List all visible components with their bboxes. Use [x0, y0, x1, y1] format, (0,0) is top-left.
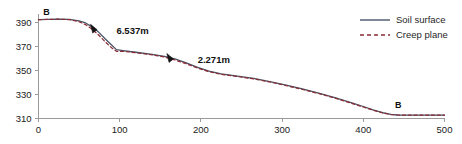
- displacement-2-arrow-icon: [167, 54, 174, 63]
- displacement-2-label: 2.271m: [198, 54, 230, 65]
- slope-profile-chart: 310330350370390 0100200300400500 6.537m2…: [0, 0, 462, 144]
- x-tick-label: 100: [112, 124, 128, 135]
- y-tick-label: 390: [16, 17, 32, 28]
- y-tick-label: 370: [16, 41, 32, 52]
- x-tick-label: 300: [274, 124, 290, 135]
- x-tick-label: 200: [193, 124, 209, 135]
- series-line-soil-surface: [39, 19, 445, 115]
- legend-label-soil-surface: Soil surface: [396, 14, 446, 25]
- y-axis-ticks: 310330350370390: [16, 17, 39, 124]
- x-tick-label: 400: [355, 124, 371, 135]
- legend-label-creep-plane: Creep plane: [396, 29, 448, 40]
- data-series: [39, 19, 445, 115]
- y-tick-label: 350: [16, 65, 32, 76]
- x-tick-label: 500: [437, 124, 453, 135]
- point-b-top: B: [43, 7, 50, 17]
- axes: [39, 14, 445, 119]
- y-tick-label: 310: [16, 113, 32, 124]
- y-tick-label: 330: [16, 89, 32, 100]
- chart-canvas: 310330350370390 0100200300400500 6.537m2…: [0, 0, 462, 144]
- point-b-bottom: B: [395, 100, 402, 110]
- x-axis-ticks: 0100200300400500: [36, 119, 453, 135]
- displacement-1-label: 6.537m: [116, 25, 148, 36]
- legend: Soil surfaceCreep plane: [360, 14, 448, 40]
- x-tick-label: 0: [36, 124, 41, 135]
- displacement-1-arrow-icon: [91, 24, 98, 33]
